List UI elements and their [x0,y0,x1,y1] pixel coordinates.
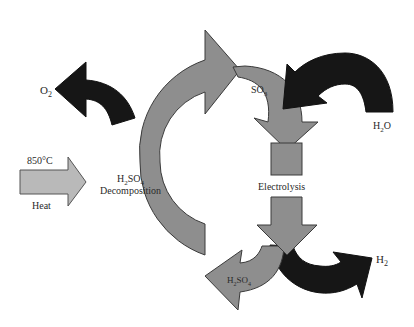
heat-label: Heat [32,200,51,211]
oxygen-label: O2 [40,84,52,99]
heat-temperature-label: 850°C [27,155,53,166]
electrolysis-column-top [271,143,302,175]
water-input-arrow [283,53,393,112]
hydrogen-label: H2 [376,253,388,268]
decomposition-label: Decomposition [100,185,161,196]
electrolysis-label: Electrolysis [258,181,305,192]
water-label: H2O [373,120,391,134]
decomposition-arc-arrow [139,30,240,255]
oxygen-output-arrow [55,62,135,125]
cycle-diagram: O2 SO3 H2O 850°C Heat H2SO4 Decompositio… [0,0,414,327]
